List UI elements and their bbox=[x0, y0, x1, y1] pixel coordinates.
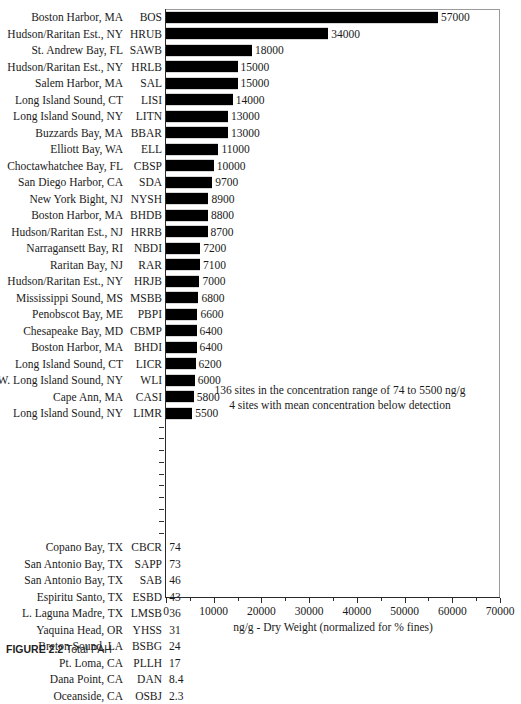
table-row: Long Island Sound, NYLITN13000 bbox=[0, 108, 521, 125]
bar-value-label: 6800 bbox=[201, 291, 224, 306]
bar-value-label: 7200 bbox=[203, 241, 226, 256]
table-row: Buzzards Bay, MABBAR13000 bbox=[0, 125, 521, 142]
x-axis-tick-label: 10000 bbox=[199, 604, 228, 618]
row-site-code: WLI bbox=[118, 373, 162, 388]
bar-value-label: 8800 bbox=[211, 208, 234, 223]
row-site-label: Long Island Sound, CT bbox=[15, 93, 123, 108]
bar-value-label: 10000 bbox=[217, 159, 246, 174]
row-site-label: Boston Harbor, MA bbox=[31, 340, 123, 355]
x-axis-tick-label: 30000 bbox=[295, 604, 324, 618]
row-site-code: CASI bbox=[118, 390, 162, 405]
row-bar-wrapper bbox=[166, 143, 500, 156]
bar bbox=[166, 93, 233, 106]
bar-value-label: 14000 bbox=[236, 93, 265, 108]
row-site-code: SAL bbox=[118, 76, 162, 91]
bar bbox=[166, 209, 208, 222]
row-bar-wrapper bbox=[166, 557, 500, 570]
bar-value-label: 15000 bbox=[241, 60, 270, 75]
bar bbox=[166, 291, 198, 304]
x-axis-tick-major bbox=[214, 598, 215, 603]
row-site-code: HRUB bbox=[118, 27, 162, 42]
row-site-label: Long Island Sound, NY bbox=[13, 406, 123, 421]
x-axis-tick-minor bbox=[285, 598, 286, 601]
x-axis-tick-label: 0 bbox=[163, 604, 169, 618]
x-axis-tick-major bbox=[500, 598, 501, 603]
row-site-label: Mississippi Sound, MS bbox=[16, 291, 123, 306]
bar-value-label: 13000 bbox=[231, 109, 260, 124]
table-row: Boston Harbor, MABHDB8800 bbox=[0, 207, 521, 224]
bar-value-label: 2.3 bbox=[169, 689, 183, 704]
bar-value-label: 7100 bbox=[203, 258, 226, 273]
bar-value-label: 11000 bbox=[221, 142, 249, 157]
row-site-label: Boston Harbor, MA bbox=[31, 10, 123, 25]
bar bbox=[166, 159, 214, 172]
axis-break-row bbox=[0, 528, 521, 540]
row-site-label: Cape Ann, MA bbox=[53, 390, 123, 405]
figure-caption-label: FIGURE 2.2 bbox=[6, 643, 63, 655]
row-site-label: Elliott Bay, WA bbox=[50, 142, 123, 157]
row-site-code: HRRB bbox=[118, 225, 162, 240]
row-site-label: Oceanside, CA bbox=[53, 689, 123, 704]
table-row: San Diego Harbor, CASDA9700 bbox=[0, 174, 521, 191]
x-axis-tick-major bbox=[357, 598, 358, 603]
row-site-code: NYSH bbox=[118, 192, 162, 207]
row-bar-wrapper bbox=[166, 110, 500, 123]
row-site-code: OSBJ bbox=[118, 689, 162, 704]
row-site-label: New York Bight, NJ bbox=[29, 192, 123, 207]
table-row: Long Island Sound, CTLISI14000 bbox=[0, 92, 521, 109]
table-row: San Antonio Bay, TXSAPP73 bbox=[0, 556, 521, 573]
axis-break-dash bbox=[159, 450, 164, 451]
row-site-code: PLLH bbox=[118, 656, 162, 671]
table-row: Elliott Bay, WAELL11000 bbox=[0, 141, 521, 158]
x-axis-tick-minor bbox=[333, 598, 334, 601]
x-axis-tick-label: 60000 bbox=[438, 604, 467, 618]
row-site-code: CBMP bbox=[118, 324, 162, 339]
bar bbox=[166, 27, 328, 40]
axis-break-row bbox=[0, 480, 521, 492]
row-site-code: SDA bbox=[118, 175, 162, 190]
row-site-code: BBAR bbox=[118, 126, 162, 141]
row-site-label: San Antonio Bay, TX bbox=[24, 557, 123, 572]
row-site-code: HRLB bbox=[118, 60, 162, 75]
row-site-code: MSBB bbox=[118, 291, 162, 306]
table-row: Choctawhatchee Bay, FLCBSP10000 bbox=[0, 158, 521, 175]
row-site-code: LMSB bbox=[118, 606, 162, 621]
row-site-label: Hudson/Raritan Est., NY bbox=[7, 27, 123, 42]
row-site-code: LISI bbox=[118, 93, 162, 108]
bar-value-label: 36 bbox=[169, 606, 181, 621]
row-site-label: Salem Harbor, MA bbox=[35, 76, 123, 91]
bar-value-label: 8.4 bbox=[169, 672, 183, 687]
axis-break-dash bbox=[159, 427, 164, 428]
row-bar-wrapper bbox=[166, 673, 500, 686]
bar bbox=[166, 192, 208, 205]
row-site-code: ESBD bbox=[118, 590, 162, 605]
table-row: Narragansett Bay, RINBDI7200 bbox=[0, 240, 521, 257]
row-bar-wrapper bbox=[166, 60, 500, 73]
bar bbox=[166, 341, 197, 354]
x-axis-tick-minor bbox=[238, 598, 239, 601]
row-site-code: BHDB bbox=[118, 208, 162, 223]
table-row: Hudson/Raritan Est., NYHRLB15000 bbox=[0, 59, 521, 76]
row-site-code: BHDI bbox=[118, 340, 162, 355]
row-site-label: Yaquina Head, OR bbox=[36, 623, 123, 638]
bar-value-label: 6600 bbox=[200, 307, 223, 322]
row-site-label: Hudson/Raritan Est., NY bbox=[7, 274, 123, 289]
table-row: Boston Harbor, MABHDI6400 bbox=[0, 339, 521, 356]
row-site-code: HRJB bbox=[118, 274, 162, 289]
row-site-code: CBSP bbox=[118, 159, 162, 174]
bar bbox=[166, 126, 228, 139]
bar bbox=[166, 110, 228, 123]
row-site-label: San Antonio Bay, TX bbox=[24, 573, 123, 588]
axis-break-dash bbox=[159, 462, 164, 463]
x-axis-tick-minor bbox=[476, 598, 477, 601]
bar-value-label: 6400 bbox=[200, 324, 223, 339]
row-site-code: ELL bbox=[118, 142, 162, 157]
x-axis-tick-minor bbox=[381, 598, 382, 601]
row-site-code: LITN bbox=[118, 109, 162, 124]
table-row: St. Andrew Bay, FLSAWB18000 bbox=[0, 42, 521, 59]
bar-value-label: 8700 bbox=[211, 225, 234, 240]
bar-value-label: 73 bbox=[169, 557, 181, 572]
bar-value-label: 17 bbox=[169, 656, 181, 671]
table-row: San Antonio Bay, TXSAB46 bbox=[0, 572, 521, 589]
